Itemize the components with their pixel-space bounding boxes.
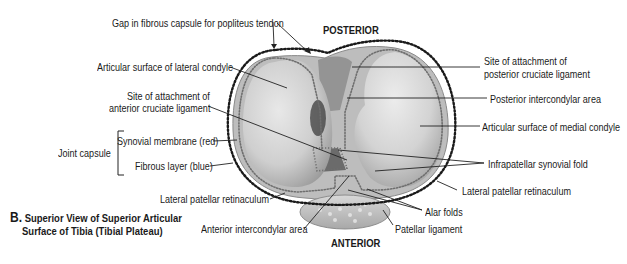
label-lateral-patellar-retinaculum-right: Lateral patellar retinaculum	[462, 185, 571, 197]
label-infrapatellar-synovial-fold: Infrapatellar synovial fold	[488, 158, 588, 170]
label-pcl-line1: Site of attachment of	[484, 55, 567, 67]
label-lateral-patellar-retinaculum-left: Lateral patellar retinaculum	[160, 193, 269, 205]
figure-letter: B.	[10, 209, 22, 225]
orientation-posterior: POSTERIOR	[323, 24, 379, 36]
label-posterior-intercondylar-area: Posterior intercondylar area	[490, 93, 601, 105]
label-anterior-intercondylar-area: Anterior intercondylar area	[201, 223, 307, 235]
figure-title-line2: Surface of Tibia (Tibial Plateau)	[10, 225, 182, 238]
figure-caption: B. Superior View of Superior Articular S…	[10, 211, 182, 238]
label-lateral-condyle: Articular surface of lateral condyle	[97, 61, 233, 73]
figure-title-line1: Superior View of Superior Articular	[25, 212, 182, 224]
label-gap-popliteus: Gap in fibrous capsule for popliteus ten…	[112, 17, 284, 29]
label-alar-folds: Alar folds	[425, 206, 463, 218]
label-acl-line2: anterior cruciate ligament	[109, 102, 210, 114]
label-acl-line1: Site of attachment of	[127, 90, 210, 102]
label-medial-condyle: Articular surface of medial condyle	[482, 121, 620, 133]
patellar-ligament-shape	[300, 195, 390, 229]
label-fibrous-layer: Fibrous layer (blue)	[135, 160, 213, 172]
label-patellar-ligament: Patellar ligament	[395, 223, 462, 235]
label-pcl-line2: posterior cruciate ligament	[484, 68, 590, 80]
label-synovial-membrane: Synovial membrane (red)	[117, 135, 218, 147]
label-joint-capsule: Joint capsule	[58, 147, 111, 159]
orientation-anterior: ANTERIOR	[331, 237, 380, 249]
